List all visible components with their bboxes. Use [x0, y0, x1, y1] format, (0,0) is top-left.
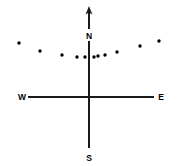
data-point — [96, 54, 99, 57]
east-label: E — [158, 92, 164, 102]
data-point — [138, 44, 141, 47]
vertical-axis-group — [86, 6, 93, 148]
data-point — [115, 50, 118, 53]
direction-labels-group: N S W E — [18, 29, 164, 163]
data-point — [75, 55, 78, 58]
south-label: S — [86, 153, 92, 163]
data-point — [103, 53, 106, 56]
data-point — [60, 53, 63, 56]
data-point — [17, 41, 20, 44]
origin-tick-icon — [85, 93, 94, 102]
compass-plot-svg: N S W E — [0, 0, 181, 166]
data-point — [38, 49, 41, 52]
west-label: W — [18, 92, 27, 102]
north-label: N — [86, 31, 92, 41]
data-point — [157, 39, 160, 42]
data-point — [92, 55, 95, 58]
compass-scatter-figure: N S W E — [0, 0, 181, 166]
data-point — [83, 55, 86, 58]
